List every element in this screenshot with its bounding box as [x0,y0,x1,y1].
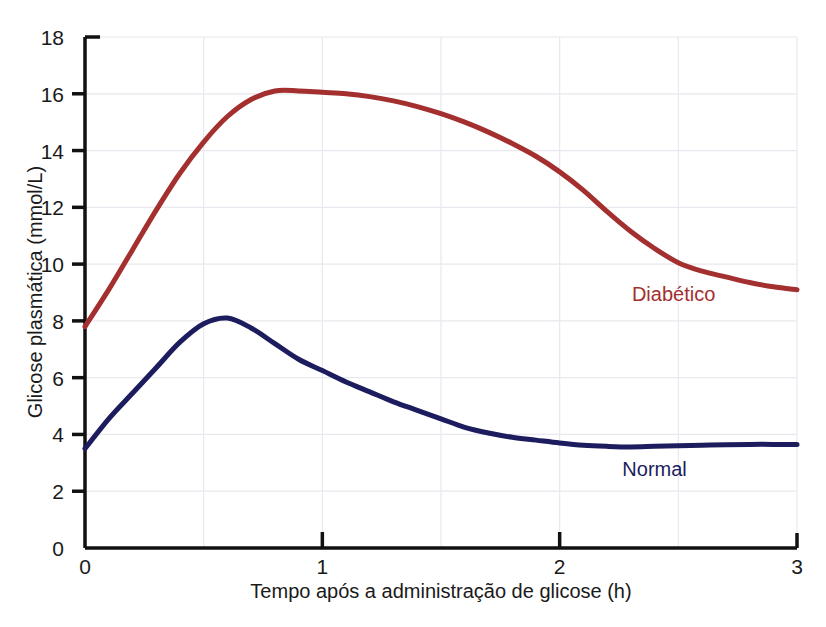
y-axis-tick-label: 4 [52,423,64,446]
x-axis-tick-label: 3 [791,555,803,578]
series-label-normal: Normal [622,458,686,480]
y-axis-tick-label: 6 [52,367,64,390]
y-axis-tick-label: 16 [41,83,64,106]
y-axis-tick-label: 0 [52,537,64,560]
y-axis-title: Glicose plasmática (mmol/L) [24,166,46,418]
x-axis-tick-label: 1 [316,555,328,578]
x-axis-title: Tempo após a administração de glicose (h… [250,580,631,602]
y-axis-tick-label: 18 [41,26,64,49]
series-label-diabetico: Diabético [632,283,715,305]
chart-figure: 024681012141618 0123 DiabéticoNormal Gli… [0,0,826,627]
y-axis-tick-label: 8 [52,310,64,333]
glucose-tolerance-line-chart: 024681012141618 0123 DiabéticoNormal Gli… [0,0,826,627]
x-axis-tick-label: 0 [79,555,91,578]
x-axis-tick-label: 2 [554,555,566,578]
y-axis-tick-label: 14 [41,140,65,163]
y-axis-tick-label: 2 [52,480,64,503]
